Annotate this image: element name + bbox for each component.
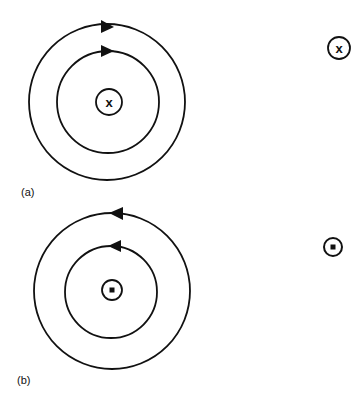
x-glyph: x	[335, 41, 343, 56]
panel-b	[34, 207, 342, 369]
dot-glyph	[110, 288, 115, 293]
panel-a: x x	[29, 20, 350, 180]
dot-glyph	[331, 245, 336, 250]
panel-a-label: (a)	[21, 186, 34, 198]
panel-b-label: (b)	[17, 374, 30, 386]
arrow-right-icon	[101, 45, 114, 57]
arrow-left-icon	[109, 207, 123, 220]
arrow-right-icon	[101, 20, 114, 33]
arrow-left-icon	[108, 240, 121, 252]
x-glyph: x	[105, 95, 113, 110]
diagram-canvas: x x	[0, 0, 362, 401]
